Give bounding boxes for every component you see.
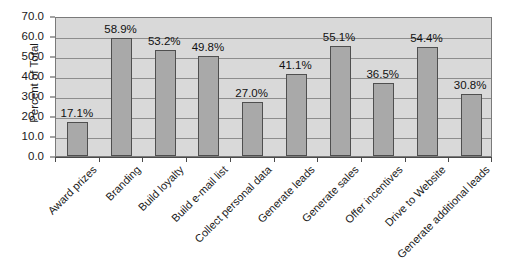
x-axis-label: Collect personal data (193, 164, 274, 245)
x-axis-category-labels: Award prizesBrandingBuild loyaltyBuild e… (0, 0, 506, 276)
x-axis-label: Generate additional leads (395, 164, 491, 260)
x-axis-label: Branding (103, 164, 142, 203)
x-axis-label: Award prizes (46, 164, 99, 217)
bar-chart: Percent of Total 0.010.020.030.040.050.0… (0, 0, 506, 276)
